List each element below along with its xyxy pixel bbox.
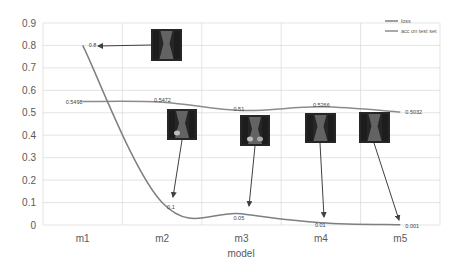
legend: loss acc on test set (385, 18, 437, 34)
x-axis-ticks: m1m2m3m4m5 (76, 233, 408, 244)
loss-data-label: 0.001 (405, 223, 419, 229)
annotation-arrow (249, 146, 255, 206)
y-tick-label: 0.5 (22, 107, 36, 118)
y-tick-label: 0.3 (22, 152, 36, 163)
y-tick-label: 0.7 (22, 62, 36, 73)
acc-data-label: 0.5472 (154, 97, 171, 103)
x-tick-label: m3 (235, 233, 249, 244)
y-tick-label: 0.9 (22, 18, 36, 29)
legend-label-acc: acc on test set (401, 28, 437, 34)
annotation-arrow (374, 143, 399, 220)
acc-data-label: 0.5498 (66, 99, 83, 105)
chart-canvas: 00.10.20.30.40.50.60.70.80.9 m1m2m3m4m5 … (0, 0, 461, 270)
thumbnail-image-m4 (305, 113, 336, 143)
x-tick-label: m5 (393, 233, 407, 244)
loss-data-label: 0.1 (167, 204, 175, 210)
x-axis-title: model (227, 248, 254, 259)
thumbnail-image-m3 (240, 115, 270, 146)
y-tick-label: 0.8 (22, 40, 36, 51)
x-tick-label: m4 (314, 233, 328, 244)
loss-data-label: 0.05 (234, 215, 245, 221)
acc-data-label: 0.51 (234, 106, 245, 112)
y-tick-label: 0.6 (22, 85, 36, 96)
y-tick-label: 0.2 (22, 175, 36, 186)
thumbnail-annotations (98, 29, 399, 220)
y-tick-label: 0.4 (22, 130, 36, 141)
legend-label-loss: loss (401, 18, 411, 24)
thumbnail-image-m5 (359, 112, 390, 143)
x-tick-label: m2 (155, 233, 169, 244)
thumbnail-image-m1 (151, 29, 182, 61)
y-tick-label: 0.1 (22, 197, 36, 208)
x-tick-label: m1 (76, 233, 90, 244)
loss-data-label: 0.8 (89, 42, 97, 48)
y-axis-ticks: 00.10.20.30.40.50.60.70.80.9 (22, 18, 36, 231)
annotation-arrow (173, 140, 182, 197)
acc-data-label: 0.5032 (405, 109, 422, 115)
loss-data-label: 0.01 (315, 222, 326, 228)
thumbnail-image-m2 (167, 109, 197, 140)
y-tick-label: 0 (30, 220, 36, 231)
acc-data-label: 0.5266 (313, 102, 330, 108)
